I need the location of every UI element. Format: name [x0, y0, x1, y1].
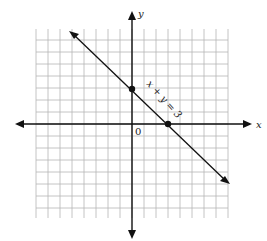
y-axis-label: y — [137, 8, 144, 19]
y-axis-arrow-up-icon — [128, 11, 136, 20]
equation-label: x + y = 3 — [145, 78, 185, 120]
x-axis-label: x — [256, 119, 262, 130]
x-axis-arrow-right-icon — [243, 120, 252, 128]
coordinate-plane: x y 0 x + y = 3 — [0, 0, 267, 241]
y-axis-arrow-down-icon — [128, 230, 136, 239]
origin-label: 0 — [135, 126, 141, 137]
x-axis-arrow-left-icon — [15, 120, 24, 128]
y-intercept-point — [129, 86, 135, 92]
x-intercept-point — [165, 121, 171, 127]
